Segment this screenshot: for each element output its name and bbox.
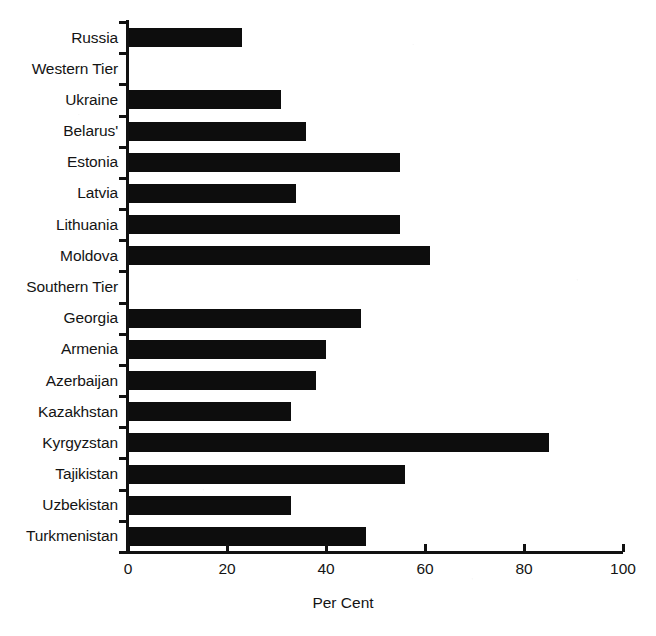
bar <box>128 28 242 47</box>
y-axis-tick <box>119 333 127 336</box>
bar <box>128 496 291 515</box>
category-label: Latvia <box>0 185 118 201</box>
x-axis-tick-label: 80 <box>515 560 532 578</box>
x-axis-tick <box>523 544 526 552</box>
y-axis-tick <box>119 520 127 523</box>
bar <box>128 433 549 452</box>
y-axis-tick <box>119 302 127 305</box>
category-label: Turkmenistan <box>0 528 118 544</box>
y-axis-tick <box>119 115 127 118</box>
y-axis-tick <box>119 426 127 429</box>
category-label: Georgia <box>0 310 118 326</box>
x-axis-tick <box>127 544 130 552</box>
category-label: Russia <box>0 30 118 46</box>
category-label: Lithuania <box>0 217 118 233</box>
x-axis-tick <box>622 544 625 552</box>
bar <box>128 402 291 421</box>
bar <box>128 184 296 203</box>
x-axis-tick <box>424 544 427 552</box>
y-axis-tick <box>119 21 127 24</box>
category-label: Western Tier <box>0 61 118 77</box>
y-axis-line <box>126 20 129 554</box>
category-label: Ukraine <box>0 92 118 108</box>
category-label: Moldova <box>0 248 118 264</box>
x-axis-tick-label: 40 <box>317 560 334 578</box>
category-label: Belarus' <box>0 123 118 139</box>
y-axis-tick <box>119 551 127 554</box>
category-label: Armenia <box>0 341 118 357</box>
y-axis-tick <box>119 146 127 149</box>
x-axis-tick-label: 0 <box>124 560 133 578</box>
x-axis-title: Per Cent <box>0 594 656 612</box>
bar <box>128 465 405 484</box>
x-axis-tick-label: 20 <box>218 560 235 578</box>
category-label: Azerbaijan <box>0 373 118 389</box>
y-axis-tick <box>119 208 127 211</box>
bar-chart: RussiaWestern TierUkraineBelarus'Estonia… <box>0 0 656 636</box>
y-axis-tick <box>119 395 127 398</box>
plot-area <box>128 22 623 552</box>
bar <box>128 153 400 172</box>
category-label: Uzbekistan <box>0 497 118 513</box>
category-label: Southern Tier <box>0 279 118 295</box>
bar <box>128 90 281 109</box>
x-axis-tick-label: 60 <box>416 560 433 578</box>
category-axis-labels: RussiaWestern TierUkraineBelarus'Estonia… <box>0 22 118 552</box>
y-axis-tick <box>119 270 127 273</box>
category-label: Kazakhstan <box>0 404 118 420</box>
category-label: Estonia <box>0 154 118 170</box>
category-label: Kyrgyzstan <box>0 435 118 451</box>
y-axis-tick <box>119 239 127 242</box>
x-axis-tick-label: 100 <box>610 560 636 578</box>
bar <box>128 246 430 265</box>
x-axis-line <box>126 551 623 554</box>
bar <box>128 527 366 546</box>
bar <box>128 215 400 234</box>
y-axis-tick <box>119 489 127 492</box>
bar <box>128 309 361 328</box>
y-axis-tick <box>119 52 127 55</box>
bar <box>128 371 316 390</box>
category-label: Tajikistan <box>0 466 118 482</box>
y-axis-tick <box>119 177 127 180</box>
bar <box>128 340 326 359</box>
y-axis-tick <box>119 364 127 367</box>
y-axis-tick <box>119 83 127 86</box>
bar <box>128 122 306 141</box>
x-axis-tick <box>226 544 229 552</box>
x-axis-tick <box>325 544 328 552</box>
y-axis-tick <box>119 457 127 460</box>
x-axis-title-text: Per Cent <box>312 594 373 612</box>
